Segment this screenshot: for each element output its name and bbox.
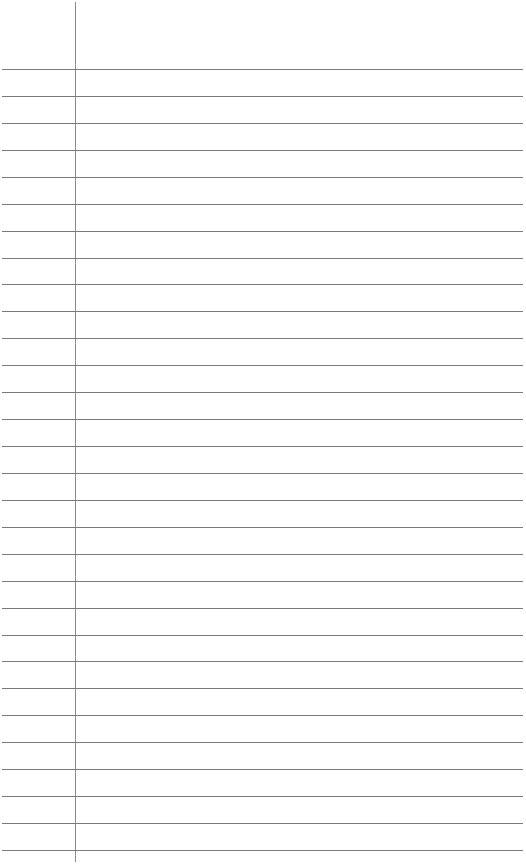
ruled-line [2,473,523,474]
ruled-line [2,311,523,312]
ruled-line [2,500,523,501]
ruled-line [2,446,523,447]
ruled-line [2,231,523,232]
ruled-line [2,123,523,124]
ruled-line [2,769,523,770]
ruled-line [2,258,523,259]
ruled-line [2,338,523,339]
ruled-line [2,850,523,851]
ruled-line [2,150,523,151]
ruled-line [2,96,523,97]
ruled-line [2,635,523,636]
ruled-line [2,661,523,662]
ruled-line [2,419,523,420]
ruled-line [2,204,523,205]
ruled-line [2,69,523,70]
ruled-line [2,688,523,689]
ruled-line [2,365,523,366]
ruled-line [2,284,523,285]
ruled-line [2,581,523,582]
margin-line [75,2,76,862]
ruled-line [2,554,523,555]
ruled-line [2,527,523,528]
ruled-line [2,177,523,178]
ruled-line [2,392,523,393]
ruled-line [2,742,523,743]
ruled-line [2,715,523,716]
ruled-line [2,823,523,824]
ruled-line [2,796,523,797]
notebook-page [0,0,526,865]
ruled-line [2,608,523,609]
